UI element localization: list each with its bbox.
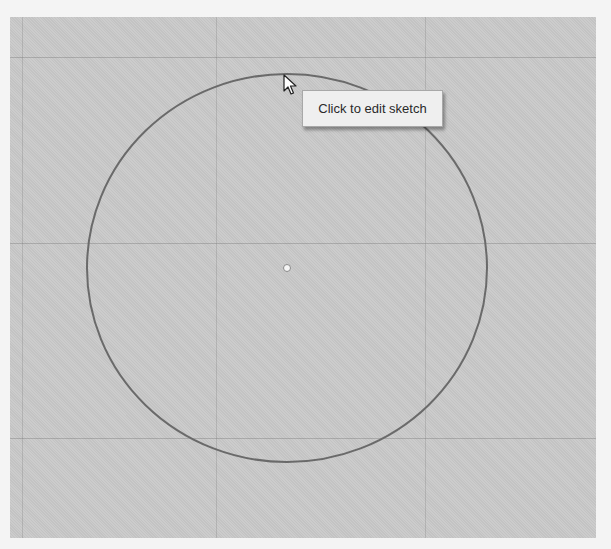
screenshot-page: Click to edit sketch <box>0 0 611 549</box>
center-point[interactable] <box>284 265 291 272</box>
edit-sketch-tooltip: Click to edit sketch <box>302 90 443 127</box>
tooltip-text: Click to edit sketch <box>318 101 426 116</box>
sketch-layer <box>0 0 611 549</box>
arrow-pointer-icon <box>283 74 297 96</box>
